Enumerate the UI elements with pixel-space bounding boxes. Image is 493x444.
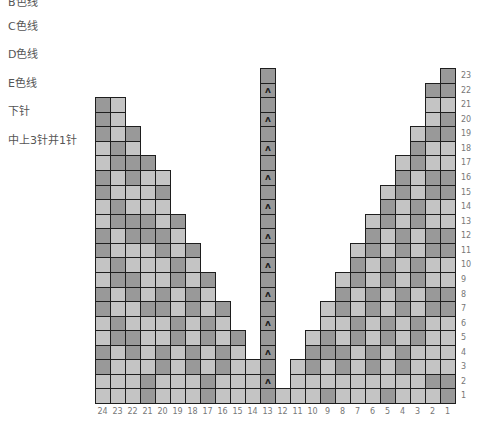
chart-cell [440,68,456,84]
chart-cell [155,185,171,201]
chart-cell [260,243,276,259]
chart-cell [440,170,456,186]
row-number: 9 [461,275,466,284]
chart-cell [140,185,156,201]
chart-cell [335,316,351,332]
chart-cell [125,141,141,157]
chart-cell [395,272,411,288]
chart-cell [95,185,111,201]
row-number: 5 [461,333,466,342]
chart-cell [215,388,231,404]
chart-cell [185,287,201,303]
chart-cell [140,287,156,303]
chart-cell: ʌ [260,345,276,361]
chart-cell [350,345,366,361]
chart-cell [215,301,231,317]
row-number: 11 [461,246,471,255]
chart-cell [125,170,141,186]
chart-cell [110,97,126,113]
row-number: 3 [461,362,466,371]
chart-cell [125,359,141,375]
chart-cell [260,126,276,142]
chart-cell [395,155,411,171]
chart-cell: ʌ [260,112,276,128]
chart-cell [395,257,411,273]
chart-cell [350,287,366,303]
decrease-symbol-icon: ʌ [261,258,275,272]
row-number: 22 [461,86,471,95]
chart-cell: ʌ [260,83,276,99]
chart-cell [395,301,411,317]
chart-cell [365,287,381,303]
column-number: 6 [365,407,380,416]
chart-cell [155,257,171,273]
decrease-symbol-icon: ʌ [261,200,275,214]
chart-cell [200,330,216,346]
chart-cell [365,330,381,346]
chart-cell [440,112,456,128]
row-number: 20 [461,115,471,124]
chart-cell [365,214,381,230]
chart-cell [425,330,441,346]
chart-cell [335,374,351,390]
chart-cell [440,141,456,157]
chart-cell [350,257,366,273]
chart-cell [140,272,156,288]
chart-cell [185,316,201,332]
chart-cell [260,330,276,346]
chart-cell [95,345,111,361]
chart-cell [305,388,321,404]
chart-cell [260,68,276,84]
column-number: 8 [335,407,350,416]
chart-cell [170,243,186,259]
chart-cell [140,301,156,317]
chart-cell [380,359,396,375]
chart-cell [155,301,171,317]
chart-cell [95,199,111,215]
chart-cell [320,388,336,404]
chart-cell [260,97,276,113]
row-number: 21 [461,100,471,109]
chart-cell [320,301,336,317]
row-number: 12 [461,231,471,240]
chart-cell [440,185,456,201]
chart-cell [245,359,261,375]
chart-cell [140,345,156,361]
chart-cell [95,257,111,273]
chart-cell [410,243,426,259]
chart-cell [395,345,411,361]
chart-cell [245,388,261,404]
chart-cell [350,272,366,288]
chart-cell [410,170,426,186]
chart-cell [110,170,126,186]
chart-cell [380,330,396,346]
chart-cell [260,155,276,171]
chart-cell [410,228,426,244]
chart-cell [140,374,156,390]
chart-cell [440,388,456,404]
chart-cell [185,359,201,375]
chart-cell [425,214,441,230]
chart-cell [95,141,111,157]
chart-cell [110,141,126,157]
column-number: 13 [260,407,275,416]
chart-cell [425,345,441,361]
chart-cell [140,330,156,346]
knitting-chart: 2423222120191817161514ʌʌʌʌʌʌʌʌʌʌʌ1312111… [0,0,493,444]
chart-cell [440,345,456,361]
chart-cell [185,388,201,404]
chart-cell [200,316,216,332]
chart-cell [215,330,231,346]
chart-cell [110,330,126,346]
chart-cell [380,257,396,273]
chart-cell [365,374,381,390]
chart-cell [395,374,411,390]
chart-cell [185,330,201,346]
column-number: 7 [350,407,365,416]
chart-cell [110,126,126,142]
chart-cell [110,345,126,361]
chart-cell [365,272,381,288]
chart-cell [395,228,411,244]
chart-cell [95,243,111,259]
chart-cell [200,345,216,361]
